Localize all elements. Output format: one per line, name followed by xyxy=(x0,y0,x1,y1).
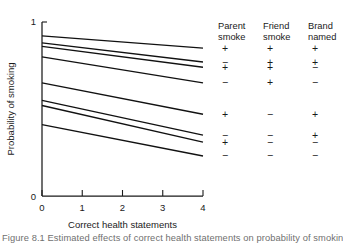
legend-symbol-1-parent-smoke: + xyxy=(222,42,228,54)
series-line-7 xyxy=(42,106,203,143)
y-axis-title: Probability of smoking xyxy=(5,63,16,156)
legend-symbol-3-brand-named: − xyxy=(312,61,318,73)
x-tick-label-4: 4 xyxy=(200,202,205,213)
x-tick-label-0: 0 xyxy=(39,202,44,213)
legend-symbol-1-brand-named: + xyxy=(312,42,318,54)
legend-symbol-5-brand-named: + xyxy=(312,108,318,120)
series-line-4 xyxy=(42,57,203,83)
legend-symbol-5-friend-smoke: − xyxy=(267,108,273,120)
x-tick-label-1: 1 xyxy=(80,202,85,213)
series-group xyxy=(42,36,203,156)
legend-symbol-1-friend-smoke: + xyxy=(267,42,273,54)
legend-header-parent-line2: smoke xyxy=(218,32,245,42)
legend-symbol-3-friend-smoke: + xyxy=(267,61,273,73)
series-line-3 xyxy=(42,46,203,67)
y-tick-label-1: 1 xyxy=(31,16,36,27)
legend-symbol-8-friend-smoke: − xyxy=(267,149,273,161)
legend-header-parent-line1: Parent xyxy=(218,21,246,31)
legend-header-friend-line2: smoke xyxy=(263,32,290,42)
figure-caption: Figure 8.1 Estimated effects of correct … xyxy=(2,233,343,243)
legend-symbol-7-parent-smoke: + xyxy=(222,136,228,148)
legend-header-brand-line1: Brand xyxy=(308,21,333,31)
legend-symbol-5-parent-smoke: + xyxy=(222,108,228,120)
x-tick-label-3: 3 xyxy=(160,202,165,213)
legend-symbol-8-parent-smoke: − xyxy=(222,149,228,161)
legend-header-group: Parent smoke Friend smoke Brand named xyxy=(218,21,336,42)
legend-symbol-4-parent-smoke: − xyxy=(222,76,228,88)
legend-symbol-group: +++−++++−−+−+−+−−++−−−−− xyxy=(222,42,318,162)
series-line-5 xyxy=(42,83,203,114)
figure-container: 0 1 2 3 4 1 0 Correct health statements … xyxy=(0,0,343,245)
legend-header-brand-line2: named xyxy=(308,32,336,42)
y-tick-label-0: 0 xyxy=(31,191,36,202)
legend-symbol-4-brand-named: − xyxy=(312,76,318,88)
legend-header-friend-line1: Friend xyxy=(263,21,289,31)
legend-symbol-7-brand-named: − xyxy=(312,136,318,148)
x-axis-title: Correct health statements xyxy=(68,219,177,230)
legend-symbol-4-friend-smoke: + xyxy=(267,76,273,88)
x-tick-label-2: 2 xyxy=(120,202,125,213)
legend-symbol-8-brand-named: − xyxy=(312,149,318,161)
legend-symbol-3-parent-smoke: + xyxy=(222,61,228,73)
legend-symbol-7-friend-smoke: − xyxy=(267,136,273,148)
chart-plot: 0 1 2 3 4 1 0 Correct health statements … xyxy=(0,0,343,245)
